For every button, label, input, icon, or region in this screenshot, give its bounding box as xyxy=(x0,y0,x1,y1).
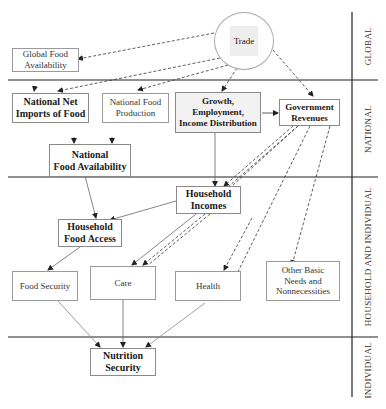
level-label-individual: INDIVIDUAL xyxy=(358,337,378,403)
level-label-national: NATIONAL xyxy=(358,80,378,177)
node-trade-label: Trade xyxy=(234,36,255,46)
node-food-security: Food Security xyxy=(12,271,78,301)
node-household-incomes: Household Incomes xyxy=(176,186,241,214)
node-health: Health xyxy=(175,271,241,301)
node-trade: Trade xyxy=(214,12,274,70)
node-growth-employment-income: Growth, Employment, Income Distribution xyxy=(175,92,261,133)
node-national-food-production: National Food Production xyxy=(102,93,169,123)
food-security-flow-diagram: Trade Global Food Availability National … xyxy=(0,0,386,409)
node-government-revenues: Government Revenues xyxy=(279,99,340,126)
node-other-basic-needs: Other Basic Needs and Nonnecessities xyxy=(266,261,340,301)
node-household-food-access: Household Food Access xyxy=(58,219,122,247)
node-global-food-availability: Global Food Availability xyxy=(12,48,79,72)
node-care: Care xyxy=(90,266,156,300)
node-national-net-imports: National Net Imports of Food xyxy=(12,93,89,123)
node-national-food-availability: National Food Availability xyxy=(49,144,131,177)
node-nutrition-security: Nutrition Security xyxy=(90,348,156,376)
level-label-household: HOUSEHOLD AND INDIVIDUAL xyxy=(358,177,378,337)
level-label-global: GLOBAL xyxy=(358,12,378,80)
